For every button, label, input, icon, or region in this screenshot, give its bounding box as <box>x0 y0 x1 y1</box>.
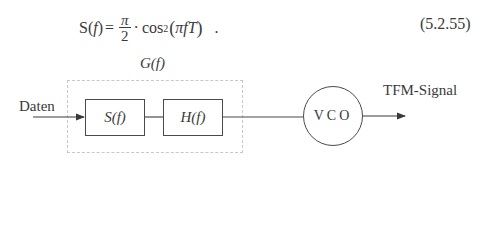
block-h-label: H(f) <box>181 109 206 126</box>
vco-label: VCO <box>314 108 353 124</box>
vco-circle: VCO <box>303 86 363 146</box>
block-s-of-f: S(f) <box>85 99 145 136</box>
block-s-label: S(f) <box>104 109 126 126</box>
block-h-of-f: H(f) <box>163 99 223 136</box>
output-label: TFM-Signal <box>383 82 457 99</box>
